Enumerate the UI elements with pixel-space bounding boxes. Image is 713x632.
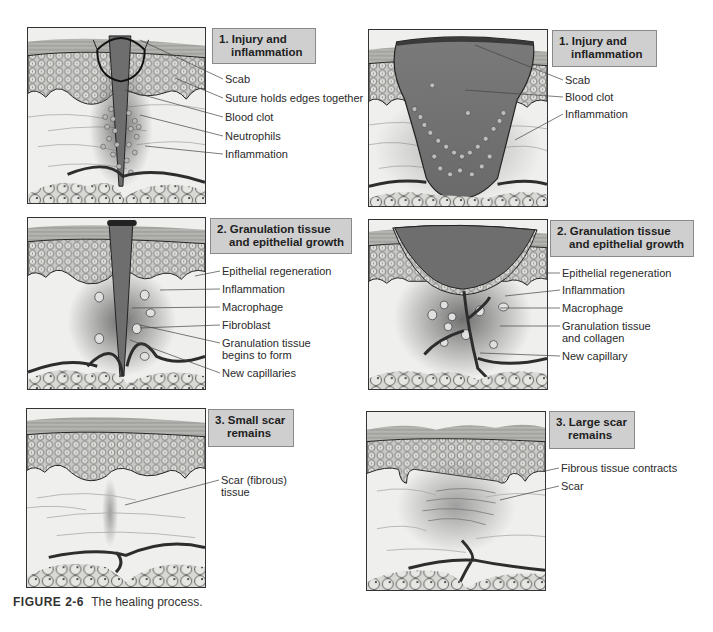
callout-macrophage: Macrophage <box>562 302 623 315</box>
stage-label-injury-right: 1. Injury and inflammation <box>552 30 657 67</box>
callout-scar-fibrous-line2: tissue <box>221 486 250 499</box>
stage-title-line1: 2. Granulation tissue <box>557 225 671 237</box>
callout-scab: Scab <box>225 73 250 86</box>
callout-fibroblast: Fibroblast <box>222 319 270 332</box>
figure-caption: FIGURE 2-6 The healing process. <box>13 595 203 609</box>
skin-cross-section-illustration <box>28 28 205 203</box>
callout-inflammation: Inflammation <box>225 148 288 161</box>
skin-cross-section-illustration <box>367 412 545 590</box>
panel-small-scar <box>26 408 206 588</box>
stage-label-granulation-right: 2. Granulation tissue and epithelial gro… <box>550 220 694 257</box>
callout-granulation-tissue-collagen-line2: and collagen <box>562 332 624 345</box>
callout-inflammation: Inflammation <box>562 284 625 297</box>
stage-title-line1: 1. Injury and <box>219 33 287 45</box>
callout-scab: Scab <box>565 74 590 87</box>
callout-new-capillaries: New capillaries <box>222 367 296 380</box>
callout-epithelial-regeneration: Epithelial regeneration <box>222 265 331 278</box>
stage-title-line2: inflammation <box>559 48 650 61</box>
callout-scar: Scar <box>561 480 584 493</box>
callout-new-capillary: New capillary <box>562 350 627 363</box>
panel-large-scar <box>366 411 546 591</box>
callout-inflammation: Inflammation <box>222 283 285 296</box>
stage-label-injury-left: 1. Injury and inflammation <box>212 28 316 64</box>
stage-label-granulation-left: 2. Granulation tissue and epithelial gro… <box>210 218 352 254</box>
callout-suture: Suture holds edges together <box>225 92 363 105</box>
figure-number: FIGURE 2-6 <box>13 595 84 609</box>
stage-title-line1: 3. Large scar <box>556 416 627 428</box>
callout-granulation-tissue-line2: begins to form <box>222 349 292 362</box>
stage-title-line2: and epithelial growth <box>217 236 345 249</box>
stage-title-line2: inflammation <box>219 46 309 59</box>
callout-blood-clot: Blood clot <box>565 91 613 104</box>
callout-epithelial-regeneration: Epithelial regeneration <box>562 267 671 280</box>
callout-inflammation: Inflammation <box>565 108 628 121</box>
figure-caption-text: The healing process. <box>91 595 202 609</box>
stage-label-small-scar: 3. Small scar remains <box>208 409 294 447</box>
stage-label-large-scar: 3. Large scar remains <box>549 411 635 449</box>
skin-cross-section-illustration <box>369 30 547 206</box>
skin-cross-section-illustration <box>369 220 547 389</box>
callout-granulation-tissue: Granulation tissue <box>222 337 311 350</box>
panel-large-wound-injury <box>368 29 548 207</box>
stage-title-line1: 2. Granulation tissue <box>217 223 331 235</box>
callout-blood-clot: Blood clot <box>225 111 273 124</box>
stage-title-line2: remains <box>215 427 287 440</box>
callout-neutrophils: Neutrophils <box>225 130 281 143</box>
callout-macrophage: Macrophage <box>222 301 283 314</box>
stage-title-line1: 3. Small scar <box>215 414 285 426</box>
skin-cross-section-illustration <box>27 409 205 587</box>
stage-title-line2: and epithelial growth <box>557 238 687 251</box>
callout-scar-fibrous: Scar (fibrous) <box>221 474 287 487</box>
stage-title-line1: 1. Injury and <box>559 35 627 47</box>
panel-small-wound-granulation <box>27 217 206 390</box>
stage-title-line2: remains <box>556 429 628 442</box>
panel-small-wound-injury <box>27 27 206 204</box>
callout-fibrous-tissue-contracts: Fibrous tissue contracts <box>561 462 677 475</box>
skin-cross-section-illustration <box>28 218 205 389</box>
callout-granulation-tissue-collagen: Granulation tissue <box>562 320 651 333</box>
panel-large-wound-granulation <box>368 219 548 390</box>
